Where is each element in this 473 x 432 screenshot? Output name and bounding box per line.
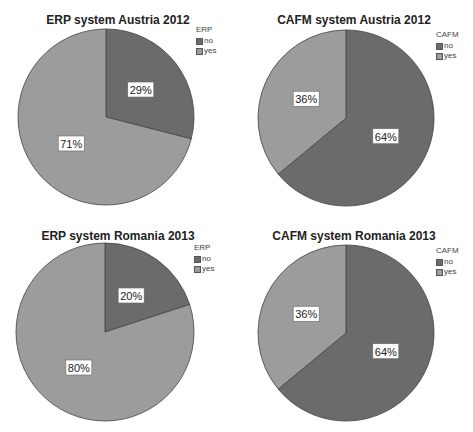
- chart-cafm-austria-2012: CAFM system Austria 2012 64%36% CAFM no …: [236, 0, 472, 216]
- legend-item-yes: yes: [436, 51, 459, 61]
- legend: ERP no yes: [194, 243, 214, 274]
- legend-item-no: no: [196, 36, 216, 46]
- legend: CAFM no yes: [436, 30, 459, 61]
- legend-title: ERP: [194, 243, 214, 253]
- svg-text:36%: 36%: [295, 308, 317, 320]
- legend-swatch: [436, 259, 443, 266]
- slice-label: 36%: [293, 306, 319, 321]
- legend: ERP no yes: [196, 25, 216, 56]
- legend-title: ERP: [196, 25, 216, 35]
- slice-label: 64%: [373, 129, 399, 144]
- legend-swatch: [196, 48, 203, 55]
- slice-label: 64%: [373, 344, 399, 359]
- legend: CAFM no yes: [436, 246, 459, 277]
- slice-label: 36%: [293, 91, 319, 106]
- svg-text:20%: 20%: [120, 290, 142, 302]
- legend-item-yes: yes: [194, 264, 214, 274]
- slice-label: 29%: [128, 82, 154, 97]
- svg-text:36%: 36%: [295, 93, 317, 105]
- legend-item-no: no: [436, 257, 459, 267]
- legend-item-yes: yes: [196, 46, 216, 56]
- legend-swatch: [436, 43, 443, 50]
- chart-cafm-romania-2013: CAFM system Romania 2013 64%36% CAFM no …: [236, 216, 472, 432]
- chart-erp-austria-2012: ERP system Austria 2012 29%71% ERP no ye…: [0, 0, 236, 216]
- slice-label: 71%: [58, 136, 84, 151]
- legend-item-no: no: [436, 41, 459, 51]
- legend-swatch: [436, 269, 443, 276]
- chart-erp-romania-2013: ERP system Romania 2013 20%80% ERP no ye…: [0, 216, 236, 432]
- slice-label: 20%: [118, 288, 144, 303]
- legend-swatch: [196, 38, 203, 45]
- legend-title: CAFM: [436, 30, 459, 40]
- svg-text:80%: 80%: [68, 362, 90, 374]
- legend-item-yes: yes: [436, 267, 459, 277]
- legend-item-no: no: [194, 254, 214, 264]
- legend-title: CAFM: [436, 246, 459, 256]
- legend-swatch: [194, 266, 201, 273]
- legend-swatch: [436, 53, 443, 60]
- svg-text:71%: 71%: [60, 138, 82, 150]
- legend-swatch: [194, 256, 201, 263]
- slice-label: 80%: [66, 360, 92, 375]
- svg-text:64%: 64%: [375, 346, 397, 358]
- svg-text:29%: 29%: [130, 84, 152, 96]
- svg-text:64%: 64%: [375, 131, 397, 143]
